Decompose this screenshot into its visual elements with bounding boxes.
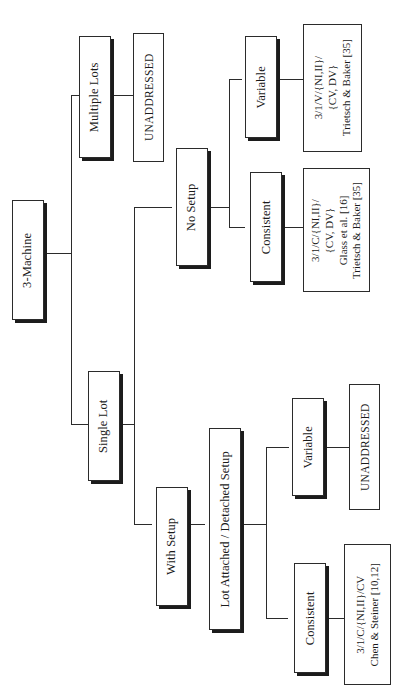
edge-variable-bottom-unaddressed: [324, 447, 349, 448]
node-label: Consistent: [303, 591, 318, 645]
edge-lot-attached-stub: [241, 524, 267, 525]
edge-root-stub: [44, 253, 72, 254]
edge-to-variable-bottom: [266, 447, 289, 448]
node-label: 3-Machine: [21, 232, 36, 287]
node-with-setup[interactable]: With Setup: [156, 487, 188, 606]
leaf-notation-variable-no-setup[interactable]: 3/1/V/{NI,II}/ {CV, DV} Trietsch & Baker…: [303, 24, 362, 152]
edge-to-variable-top: [229, 79, 242, 80]
leaf-unaddressed-variable-setup[interactable]: UNADDRESSED: [349, 384, 380, 510]
node-label: Multiple Lots: [88, 62, 103, 132]
leaf-label: 3/1/C/{NI,II}/ {CV, DV} Glass et al. [16…: [309, 181, 364, 278]
node-label: Single Lot: [97, 399, 112, 452]
leaf-label: UNADDRESSED: [141, 54, 155, 142]
edge-consistent-top-leaf: [282, 227, 303, 228]
node-single-lot[interactable]: Single Lot: [88, 371, 120, 481]
edge-root-spine: [71, 95, 72, 425]
node-label: Consistent: [259, 200, 274, 254]
edge-with-setup-lot-attached: [188, 524, 205, 525]
node-variable-no-setup[interactable]: Variable: [245, 36, 277, 138]
edge-multiple-lots-unaddressed: [112, 95, 133, 96]
classification-tree-canvas: 3-Machine Multiple Lots Single Lot No Se…: [0, 0, 403, 700]
node-lot-attached-detached-setup[interactable]: Lot Attached / Detached Setup: [209, 428, 241, 630]
node-label: Variable: [254, 66, 269, 108]
leaf-label: 3/1/V/{NI,II}/ {CV, DV} Trietsch & Baker…: [312, 39, 353, 136]
edge-lot-attached-spine: [266, 447, 267, 619]
node-multiple-lots[interactable]: Multiple Lots: [79, 36, 111, 158]
node-variable-with-setup[interactable]: Variable: [292, 398, 324, 496]
node-consistent-with-setup[interactable]: Consistent: [294, 563, 326, 673]
leaf-unaddressed-multiple-lots[interactable]: UNADDRESSED: [133, 33, 164, 162]
leaf-notation-consistent-with-setup[interactable]: 3/1/C/{NI,II}/CV Chen & Steiner [10,12]: [344, 544, 391, 685]
edge-single-lot-stub: [120, 424, 135, 425]
edge-variable-top-leaf: [277, 79, 303, 80]
edge-no-setup-spine: [229, 79, 230, 228]
leaf-label: 3/1/C/{NI,II}/CV Chen & Steiner [10,12]: [354, 563, 382, 666]
node-label: With Setup: [165, 518, 180, 575]
edge-to-with-setup: [134, 524, 152, 525]
node-label: No Setup: [185, 183, 200, 231]
edge-to-consistent-top: [229, 227, 245, 228]
node-label: Variable: [301, 426, 316, 468]
leaf-notation-consistent-no-setup[interactable]: 3/1/C/{NI,II}/ {CV, DV} Glass et al. [16…: [303, 168, 370, 292]
node-root-3-machine[interactable]: 3-Machine: [12, 200, 44, 320]
edge-single-lot-spine: [134, 207, 135, 525]
edge-to-consistent-bottom: [266, 618, 288, 619]
leaf-label: UNADDRESSED: [357, 403, 371, 491]
node-no-setup[interactable]: No Setup: [176, 148, 208, 266]
edge-to-no-setup: [134, 207, 172, 208]
node-label: Lot Attached / Detached Setup: [218, 451, 233, 607]
edge-no-setup-stub: [208, 207, 230, 208]
edge-consistent-bottom-leaf: [326, 618, 344, 619]
node-consistent-no-setup[interactable]: Consistent: [250, 172, 282, 282]
